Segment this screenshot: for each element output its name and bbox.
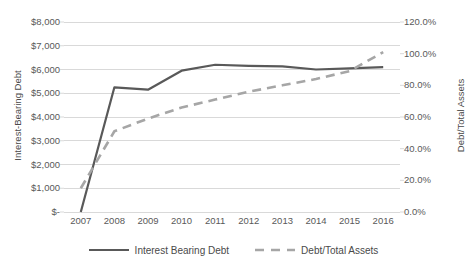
x-axis-tick-label: 2011 [197, 215, 233, 226]
x-axis-ticks: 2007200820092010201120122013201420152016 [64, 215, 400, 231]
y-right-tick-label: 0.0% [404, 207, 426, 217]
legend-label: Interest Bearing Debt [135, 245, 230, 256]
y-axis-right-title: Debt/Total Assets [455, 41, 466, 191]
y-right-tick-label: 100.0% [404, 49, 436, 59]
x-axis-tick-label: 2007 [63, 215, 99, 226]
y-left-tick-label: $4,000 [31, 112, 60, 122]
x-axis-tick-label: 2009 [130, 215, 166, 226]
y-left-tick-label: $5,000 [31, 88, 60, 98]
plot-svg [64, 22, 400, 212]
y-right-tick-label: 60.0% [404, 112, 431, 122]
x-axis-tick-label: 2014 [298, 215, 334, 226]
legend-item[interactable]: Interest Bearing Debt [89, 245, 230, 256]
series-line-2 [81, 52, 383, 188]
gridlines [60, 22, 404, 212]
x-axis-tick-label: 2015 [332, 215, 368, 226]
chart-legend: Interest Bearing DebtDebt/Total Assets [0, 240, 467, 260]
solid-line-icon [89, 245, 129, 255]
x-axis-tick-label: 2013 [264, 215, 300, 226]
y-left-tick-label: $- [52, 207, 60, 217]
y-left-tick-label: $3,000 [31, 136, 60, 146]
y-axis-left-ticks: $8,000$7,000$6,000$5,000$4,000$3,000$2,0… [16, 0, 60, 230]
legend-item[interactable]: Debt/Total Assets [255, 245, 378, 256]
y-left-tick-label: $1,000 [31, 183, 60, 193]
y-left-tick-label: $8,000 [31, 17, 60, 27]
y-right-tick-label: 40.0% [404, 144, 431, 154]
y-axis-right-ticks: 120.0%100.0%80.0%60.0%40.0%20.0%0.0% [404, 0, 448, 230]
plot-area [64, 22, 400, 212]
y-left-tick-label: $2,000 [31, 160, 60, 170]
y-right-tick-label: 120.0% [404, 17, 436, 27]
x-axis-tick-label: 2016 [365, 215, 401, 226]
x-axis-tick-label: 2012 [231, 215, 267, 226]
x-axis-tick-label: 2010 [164, 215, 200, 226]
y-right-tick-label: 80.0% [404, 80, 431, 90]
legend-label: Debt/Total Assets [301, 245, 378, 256]
series-line-1 [81, 65, 383, 212]
x-axis-tick-label: 2008 [96, 215, 132, 226]
financial-line-chart: Interest-Bearing Debt Debt/Total Assets … [0, 0, 467, 266]
y-right-tick-label: 20.0% [404, 175, 431, 185]
dashed-line-icon [255, 245, 295, 255]
y-left-tick-label: $6,000 [31, 65, 60, 75]
y-left-tick-label: $7,000 [31, 41, 60, 51]
